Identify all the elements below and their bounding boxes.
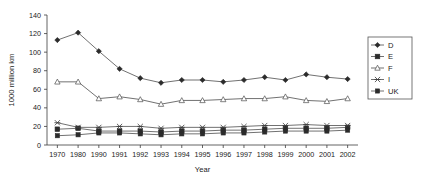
- legend-label-I: I: [388, 75, 390, 84]
- marker-filled-square: [283, 129, 287, 133]
- line-chart: 0204060801001201401000 million km1970198…: [0, 0, 430, 181]
- marker-open-triangle: [345, 96, 350, 101]
- marker-filled-diamond: [158, 80, 163, 85]
- y-tick-label: 80: [33, 66, 41, 75]
- y-axis-title: 1000 million km: [7, 54, 16, 107]
- x-axis-title: Year: [195, 165, 211, 174]
- marker-x-cross: [54, 120, 60, 125]
- marker-filled-diamond: [55, 37, 60, 42]
- marker-filled-square: [180, 132, 184, 136]
- marker-filled-square: [242, 131, 246, 135]
- x-tick-label: 1998: [257, 150, 273, 159]
- legend-label-F: F: [388, 64, 393, 73]
- x-tick-label: 1996: [215, 150, 231, 159]
- marker-filled-square: [55, 134, 59, 138]
- x-tick-label: 2000: [298, 150, 314, 159]
- marker-filled-diamond: [262, 75, 267, 80]
- x-tick-label: 1990: [91, 150, 107, 159]
- y-tick-label: 40: [33, 103, 41, 112]
- marker-x-cross: [137, 124, 143, 129]
- marker-filled-diamond: [241, 77, 246, 82]
- y-tick-group: 020406080100120140: [29, 11, 47, 150]
- marker-filled-diamond: [221, 79, 226, 84]
- y-tick-label: 120: [29, 29, 41, 38]
- marker-filled-square: [97, 131, 101, 135]
- x-tick-group: 1970198019901991199219931994199519961997…: [49, 145, 355, 159]
- marker-filled-diamond: [304, 72, 309, 77]
- marker-filled-square: [325, 129, 329, 133]
- x-tick-label: 2001: [319, 150, 335, 159]
- x-tick-label: 1995: [195, 150, 211, 159]
- marker-x-cross: [117, 124, 123, 129]
- series-D: [55, 30, 350, 85]
- marker-filled-square: [263, 130, 267, 134]
- y-tick-label: 140: [29, 11, 41, 20]
- marker-filled-square: [375, 54, 380, 59]
- y-tick-label: 100: [29, 48, 41, 57]
- marker-filled-diamond: [345, 76, 350, 81]
- marker-filled-diamond: [324, 75, 329, 80]
- marker-filled-square: [55, 127, 60, 132]
- y-tick-label: 0: [37, 141, 41, 150]
- marker-filled-square: [346, 128, 350, 132]
- legend: DEFIUK: [368, 37, 412, 99]
- x-tick-label: 1993: [153, 150, 169, 159]
- marker-filled-square: [221, 131, 225, 135]
- marker-filled-square: [200, 132, 204, 136]
- x-tick-label: 2002: [340, 150, 356, 159]
- series-F: [55, 79, 351, 106]
- legend-label-UK: UK: [388, 87, 399, 96]
- x-tick-label: 1980: [70, 150, 86, 159]
- x-tick-label: 1999: [277, 150, 293, 159]
- y-tick-label: 60: [33, 85, 41, 94]
- marker-filled-square: [304, 129, 308, 133]
- x-tick-label: 1991: [112, 150, 128, 159]
- y-tick-label: 20: [33, 122, 41, 131]
- marker-filled-square: [117, 131, 121, 135]
- marker-filled-square: [159, 133, 163, 137]
- marker-filled-diamond: [283, 77, 288, 82]
- marker-filled-square: [76, 133, 80, 137]
- marker-filled-diamond: [179, 77, 184, 82]
- marker-filled-square: [138, 132, 142, 136]
- x-tick-label: 1994: [174, 150, 190, 159]
- marker-filled-diamond: [200, 77, 205, 82]
- legend-label-E: E: [388, 52, 393, 61]
- marker-filled-square: [375, 89, 379, 93]
- marker-filled-diamond: [138, 76, 143, 81]
- x-tick-label: 1992: [132, 150, 148, 159]
- x-tick-label: 1997: [236, 150, 252, 159]
- marker-open-triangle: [117, 94, 122, 99]
- legend-label-D: D: [388, 41, 394, 50]
- marker-open-triangle: [283, 94, 288, 99]
- chart-canvas: 0204060801001201401000 million km1970198…: [0, 0, 430, 181]
- x-tick-label: 1970: [49, 150, 65, 159]
